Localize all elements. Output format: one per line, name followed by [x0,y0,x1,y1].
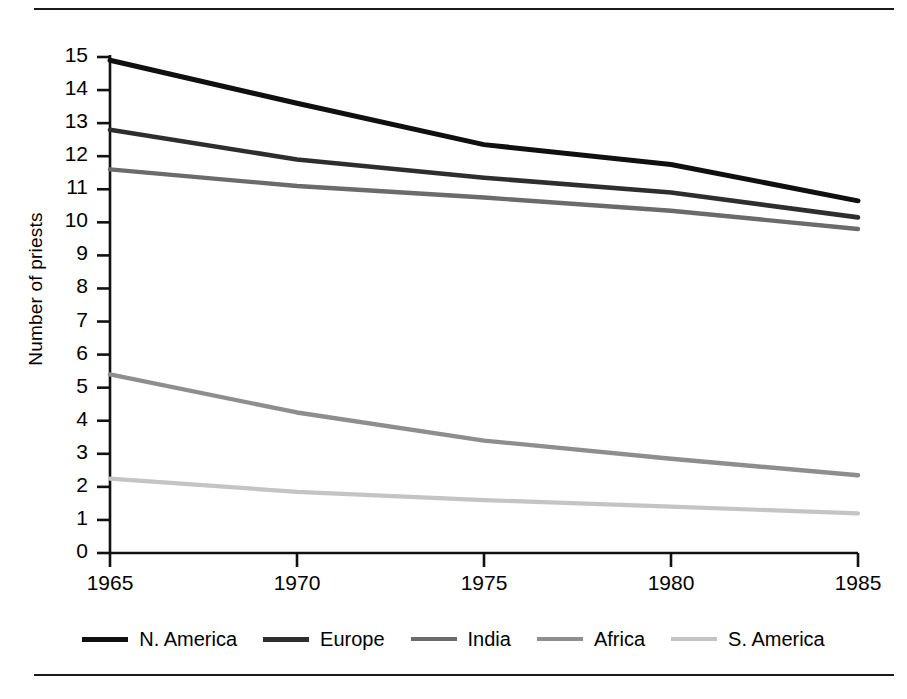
line-chart-svg [0,16,907,616]
legend-label: India [468,628,511,651]
series-line-s-america [110,479,858,514]
legend-label: Europe [320,628,385,651]
chart-legend: N. AmericaEuropeIndiaAfricaS. America [0,622,907,656]
y-tick-label: 1 [46,506,88,530]
series-line-africa [110,374,858,475]
legend-swatch-icon [671,637,717,641]
legend-label: Africa [594,628,645,651]
x-tick-label: 1985 [813,571,903,595]
x-tick-label: 1975 [439,571,529,595]
legend-item[interactable]: S. America [671,628,825,651]
y-tick-label: 4 [46,407,88,431]
bottom-rule [34,674,894,676]
y-tick-label: 2 [46,473,88,497]
y-tick-label: 3 [46,440,88,464]
legend-swatch-icon [263,637,309,642]
y-tick-label: 14 [46,76,88,100]
y-tick-label: 9 [46,241,88,265]
legend-swatch-icon [537,637,583,641]
y-tick-label: 8 [46,274,88,298]
y-tick-label: 10 [46,208,88,232]
y-tick-label: 5 [46,374,88,398]
x-tick-label: 1965 [65,571,155,595]
x-tick-label: 1970 [252,571,342,595]
legend-item[interactable]: N. America [82,628,237,651]
legend-item[interactable]: India [411,628,511,651]
legend-label: N. America [139,628,237,651]
legend-item[interactable]: Africa [537,628,645,651]
legend-swatch-icon [82,637,128,642]
y-tick-label: 15 [46,43,88,67]
legend-item[interactable]: Europe [263,628,385,651]
legend-swatch-icon [411,637,457,641]
chart-area: Number of priests 0123456789101112131415… [0,16,907,616]
y-tick-label: 13 [46,109,88,133]
y-tick-label: 0 [46,539,88,563]
x-tick-label: 1980 [626,571,716,595]
top-rule [34,8,894,10]
y-tick-label: 6 [46,341,88,365]
legend-label: S. America [728,628,825,651]
figure-container: Number of priests 0123456789101112131415… [0,0,907,699]
y-tick-label: 12 [46,142,88,166]
y-tick-label: 11 [46,175,88,199]
y-tick-label: 7 [46,308,88,332]
